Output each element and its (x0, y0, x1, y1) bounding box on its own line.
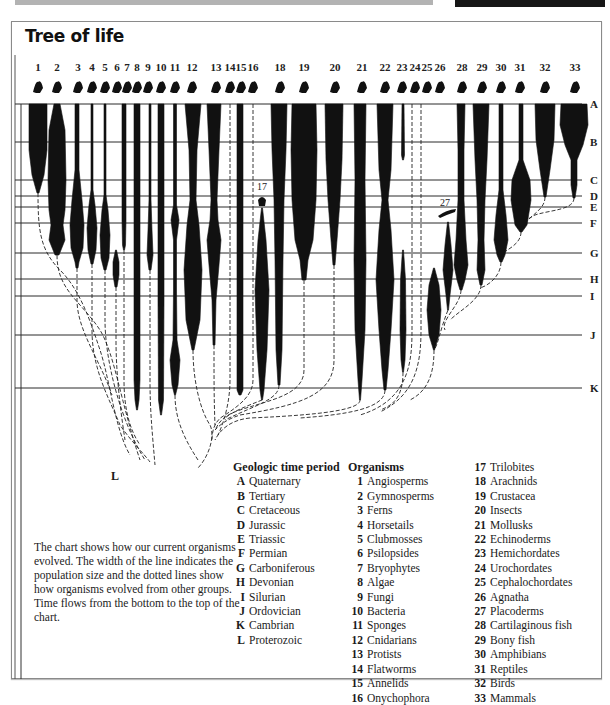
organism-9-icon (143, 81, 153, 93)
organism-legend-name: Trilobites (490, 461, 534, 473)
organism-legend-item: 27Placoderms (471, 604, 572, 618)
ancestry-link (57, 255, 140, 460)
organism-legend-name: Mollusks (490, 519, 533, 531)
organism-21-icon (357, 81, 367, 93)
organism-legend-item: 13Protists (348, 647, 434, 661)
column-number-13: 13 (211, 61, 223, 73)
organism-legend-name: Angiosperms (367, 475, 428, 487)
column-number-11: 11 (170, 61, 180, 73)
organism-legend-key: 23 (471, 546, 486, 560)
organism-legend-item: 32Birds (471, 676, 572, 690)
organism-22-icon (380, 81, 390, 93)
lineage-27 (443, 222, 453, 310)
organism-legend-key: 28 (471, 618, 486, 632)
period-legend-name: Jurassic (249, 519, 285, 531)
organism-legend-item: 22Echinoderms (471, 532, 572, 546)
organism-legend-name: Psilopsides (367, 547, 419, 559)
organism-legend-name: Fungi (367, 591, 394, 603)
period-legend-key: G (233, 561, 245, 575)
period-legend-name: Ordovician (249, 605, 301, 617)
column-number-21: 21 (357, 61, 368, 73)
lineage-3 (70, 104, 84, 268)
organism-legend-item: 6Psilopsides (348, 546, 434, 560)
organism-legend-item: 18Arachnids (471, 474, 572, 488)
inline-number-27: 27 (440, 197, 450, 208)
inline-number-17: 17 (257, 181, 267, 192)
organism-legend-key: 25 (471, 575, 486, 589)
ancestry-link (410, 350, 434, 400)
column-number-26: 26 (435, 61, 447, 73)
organism-legend-item: 17Trilobites (471, 460, 572, 474)
organism-legend-item: 25Cephalochordates (471, 575, 572, 589)
organism-29-icon (477, 81, 487, 93)
organism-8-icon (132, 81, 142, 93)
lineage-26 (427, 268, 441, 350)
period-label-E: E (590, 201, 597, 213)
organism-33-icon (570, 81, 580, 93)
period-legend-name: Proterozoic (249, 634, 302, 646)
organism-legend-item: 14Flatworms (348, 662, 434, 676)
lineage-2 (48, 104, 66, 255)
period-label-B: B (590, 136, 598, 148)
organism-12-icon (187, 81, 197, 93)
period-legend-item: BTertiary (233, 489, 340, 503)
lineage-23 (402, 104, 405, 160)
period-legend-item: DJurassic (233, 518, 340, 532)
lineage-19 (291, 104, 317, 280)
ancestry-link (215, 400, 360, 440)
period-legend-key: J (233, 604, 245, 618)
organism-20-icon (330, 81, 340, 93)
organism-28-icon (457, 81, 467, 93)
period-legend-item: LProterozoic (233, 633, 340, 647)
organism-legend-name: Protists (367, 648, 402, 660)
period-legend-item: GCarboniferous (233, 561, 340, 575)
organism-4-icon (87, 81, 97, 93)
organism-legend-name: Amphibians (490, 648, 546, 660)
column-number-7: 7 (124, 61, 130, 73)
organism-legend-key: 27 (471, 604, 486, 618)
organism-5-icon (100, 81, 110, 93)
organism-legend-key: 5 (348, 532, 363, 546)
organism-legend-key: 32 (471, 676, 486, 690)
organism-legend-key: 1 (348, 474, 363, 488)
organism-legend-item: 11Sponges (348, 618, 434, 632)
organism-legend-key: 15 (348, 676, 363, 690)
organism-legend-name: Ferns (367, 504, 393, 516)
organism-16-icon (248, 81, 258, 93)
period-legend-key: E (233, 532, 245, 546)
organism-legend-name: Clubmosses (367, 533, 423, 545)
organism-legend-name: Insects (490, 504, 522, 516)
organism-legend-item: 9Fungi (348, 590, 434, 604)
ancestry-link (225, 400, 262, 418)
ancestry-link (215, 265, 334, 430)
lineage-5 (100, 104, 110, 270)
lineage-7 (122, 104, 126, 250)
organism-legend-name: Bony fish (490, 634, 535, 646)
period-legend-key: F (233, 546, 245, 560)
ancestry-link (193, 350, 212, 468)
column-number-29: 29 (477, 61, 489, 73)
period-label-F: F (590, 217, 597, 229)
period-legend-name: Cambrian (249, 619, 294, 631)
organism-legend-name: Crustacea (490, 490, 535, 502)
column-number-16: 16 (248, 61, 260, 73)
period-L-label: L (111, 469, 119, 484)
organism-legend-item: 26Agnatha (471, 590, 572, 604)
period-label-A: A (590, 98, 598, 110)
organism-legend-item: 8Algae (348, 575, 434, 589)
ancestry-link (175, 395, 198, 460)
organism-legend-item: 31Reptiles (471, 662, 572, 676)
column-number-25: 25 (422, 61, 434, 73)
lineage-17 (255, 208, 269, 400)
column-number-5: 5 (102, 61, 108, 73)
period-legend-name: Permian (249, 547, 287, 559)
organism-legend-key: 16 (348, 691, 363, 705)
column-number-2: 2 (54, 61, 60, 73)
period-legend-name: Tertiary (249, 490, 285, 502)
organism-18-icon (275, 81, 285, 93)
organism-legend-name: Echinoderms (490, 533, 551, 545)
lineage-20 (325, 104, 343, 265)
organisms-legend-col2: 17Trilobites18Arachnids19Crustacea20Inse… (471, 460, 572, 705)
column-number-32: 32 (540, 61, 552, 73)
period-legend-name: Triassic (249, 533, 285, 545)
